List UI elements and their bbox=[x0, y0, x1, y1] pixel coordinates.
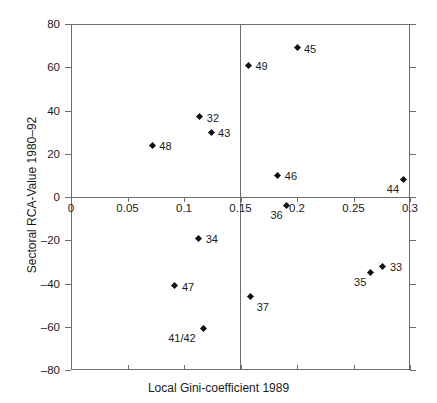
y-axis-tick-label: 40 bbox=[47, 105, 60, 117]
data-point-label: 41/42 bbox=[168, 333, 196, 344]
y-axis-tick-mark-right bbox=[410, 327, 416, 328]
x-axis-tick-label: 0.05 bbox=[108, 202, 148, 214]
data-point-label: 45 bbox=[304, 44, 316, 55]
y-axis-tick-mark-right bbox=[410, 240, 416, 241]
y-axis-tick-mark bbox=[65, 370, 71, 371]
data-point-label: 43 bbox=[218, 128, 230, 139]
data-point-label: 35 bbox=[354, 277, 366, 288]
y-axis-tick-label: 60 bbox=[47, 61, 60, 73]
y-axis-tick-mark bbox=[65, 240, 71, 241]
y-axis-tick-mark-right bbox=[410, 154, 416, 155]
y-axis-tick-mark bbox=[65, 327, 71, 328]
y-axis-tick-mark-right bbox=[410, 67, 416, 68]
y-axis-tick-mark-right bbox=[410, 24, 416, 25]
y-axis-tick-label: –60 bbox=[41, 321, 60, 333]
data-point-label: 34 bbox=[206, 234, 218, 245]
data-point-label: 47 bbox=[182, 282, 194, 293]
y-axis-tick-label: –40 bbox=[41, 278, 60, 290]
x-axis-tick-mark-bottom bbox=[410, 365, 411, 370]
x-axis-tick-label: 0.15 bbox=[221, 202, 261, 214]
data-point-label: 49 bbox=[255, 61, 267, 72]
data-point-label: 48 bbox=[159, 141, 171, 152]
data-point-label: 33 bbox=[390, 262, 402, 273]
x-axis-tick-mark-bottom bbox=[71, 365, 72, 370]
x-axis-tick-label: 0.3 bbox=[390, 202, 430, 214]
x-axis-tick-label: 0 bbox=[51, 202, 91, 214]
y-axis-tick-mark-right bbox=[410, 284, 416, 285]
data-point-label: 36 bbox=[270, 210, 282, 221]
x-axis-tick-mark-bottom bbox=[241, 365, 242, 370]
data-point-label: 37 bbox=[257, 302, 269, 313]
data-point-label: 46 bbox=[285, 171, 297, 182]
y-axis-tick-mark-right bbox=[410, 370, 416, 371]
data-point-label: 44 bbox=[387, 184, 399, 195]
scatter-plot-figure: 806040200–20–40–60–8000.050.10.150.20.25… bbox=[0, 0, 437, 403]
x-axis-tick-mark-bottom bbox=[354, 365, 355, 370]
x-axis-title: Local Gini-coefficient 1989 bbox=[0, 381, 437, 395]
y-axis-tick-mark bbox=[65, 154, 71, 155]
y-axis-tick-label: 80 bbox=[47, 18, 60, 30]
y-axis-tick-mark-right bbox=[410, 111, 416, 112]
y-axis-tick-mark bbox=[65, 284, 71, 285]
x-axis-tick-mark-bottom bbox=[297, 365, 298, 370]
y-axis-tick-label: 20 bbox=[47, 148, 60, 160]
data-point-label: 32 bbox=[207, 113, 219, 124]
x-axis-tick-label: 0.1 bbox=[164, 202, 204, 214]
y-axis-tick-label: –80 bbox=[41, 364, 60, 376]
y-axis-tick-mark bbox=[65, 111, 71, 112]
x-axis-tick-mark-bottom bbox=[128, 365, 129, 370]
x-axis-tick-mark-bottom bbox=[184, 365, 185, 370]
y-axis-tick-mark bbox=[65, 24, 71, 25]
y-axis-tick-mark bbox=[65, 67, 71, 68]
x-axis-tick-label: 0.25 bbox=[334, 202, 374, 214]
y-axis-title: Sectoral RCA-Value 1980–92 bbox=[25, 85, 39, 305]
y-axis-tick-label: –20 bbox=[41, 234, 60, 246]
